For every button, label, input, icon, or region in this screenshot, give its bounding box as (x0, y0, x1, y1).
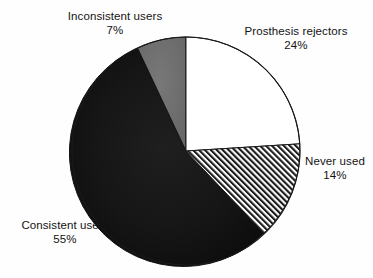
pie-label-never-used-name: Never used (297, 155, 373, 169)
pie-label-consistent-users-name: Consistent users (4, 219, 126, 233)
pie-label-inconsistent-users: Inconsistent users 7% (48, 10, 182, 37)
pie-slice-prosthesis-rejectors[interactable] (186, 37, 300, 151)
pie-label-never-used-value: 14% (297, 169, 373, 183)
pie-label-inconsistent-users-name: Inconsistent users (48, 10, 182, 24)
pie-label-prosthesis-rejectors-name: Prosthesis rejectors (228, 25, 364, 39)
pie-label-consistent-users-value: 55% (4, 233, 126, 247)
pie-label-prosthesis-rejectors-value: 24% (228, 39, 364, 53)
pie-label-never-used: Never used 14% (297, 155, 373, 182)
pie-label-inconsistent-users-value: 7% (48, 24, 182, 38)
pie-label-consistent-users: Consistent users 55% (4, 219, 126, 246)
pie-label-prosthesis-rejectors: Prosthesis rejectors 24% (228, 25, 364, 52)
pie-chart-figure: Inconsistent users 7% Prosthesis rejecto… (0, 0, 373, 278)
